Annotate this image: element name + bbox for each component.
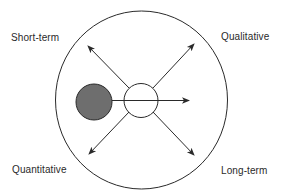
arrow-up-right <box>153 44 194 88</box>
filled-gray-circle <box>76 84 112 120</box>
label-short-term: Short-term <box>11 32 59 44</box>
label-qualitative: Qualitative <box>221 31 269 43</box>
arrow-up-left <box>88 46 129 88</box>
label-long-term: Long-term <box>221 165 267 177</box>
label-quantitative: Quantitative <box>12 164 67 176</box>
arrow-down-right <box>153 112 194 155</box>
